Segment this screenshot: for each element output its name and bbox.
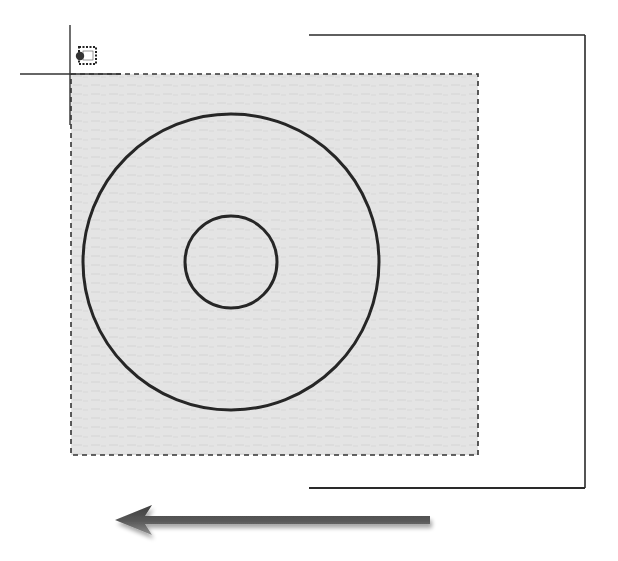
drag-direction-arrow-left-icon xyxy=(115,505,430,535)
selection-window[interactable] xyxy=(71,74,478,455)
crossing-selection-icon xyxy=(76,47,96,64)
cad-diagram-canvas xyxy=(0,0,618,561)
selection-fill xyxy=(71,74,478,455)
